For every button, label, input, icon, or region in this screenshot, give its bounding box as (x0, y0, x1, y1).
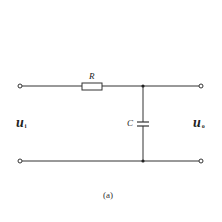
resistor-label: R (89, 71, 95, 81)
output-voltage-label: uo (193, 115, 205, 131)
capacitor-label: C (127, 118, 133, 128)
junction-dot-bottom (141, 159, 144, 162)
input-terminal-bottom (18, 159, 22, 163)
output-voltage-subscript: o (202, 123, 205, 129)
input-voltage-symbol: u (16, 115, 24, 130)
resistor-symbol (82, 83, 102, 90)
output-voltage-symbol: u (193, 115, 201, 130)
input-terminal-top (18, 84, 22, 88)
figure-caption: (a) (103, 190, 113, 200)
output-terminal-bottom (199, 159, 203, 163)
junction-dot-top (141, 84, 144, 87)
input-voltage-subscript: i (25, 123, 27, 129)
circuit-diagram (0, 0, 222, 222)
input-voltage-label: ui (16, 115, 26, 131)
output-terminal-top (199, 84, 203, 88)
